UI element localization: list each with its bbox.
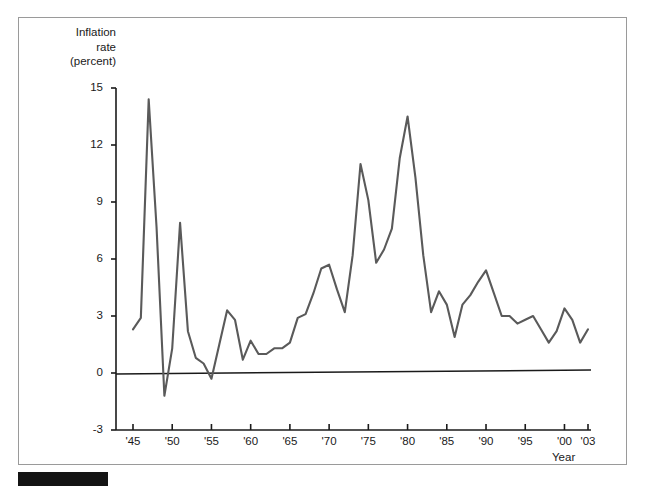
- series-line-0: [133, 99, 588, 395]
- plot-area: [0, 0, 649, 488]
- zero-reference-line: [116, 370, 591, 374]
- data-series-group: [133, 99, 588, 395]
- zero-line: [116, 370, 591, 374]
- chart-figure: Inflation rate (percent) Year 15129630-3…: [0, 0, 649, 488]
